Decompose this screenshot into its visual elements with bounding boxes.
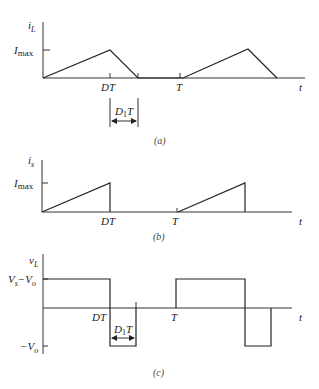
t-label: T xyxy=(172,215,179,227)
waveform-diagram: iL Imax DT T t D1T (a) is Imax DT T t (b… xyxy=(0,0,319,389)
y-axis-label: vL xyxy=(29,254,39,269)
d1t-label: D1T xyxy=(113,323,133,337)
dt-label: DT xyxy=(100,215,116,227)
dt-label: DT xyxy=(100,81,116,93)
y-axis-label: is xyxy=(28,154,34,169)
y-axis-label: iL xyxy=(28,19,36,34)
panel-b-source-current: is Imax DT T t (b) xyxy=(13,154,303,243)
is-waveform-2 xyxy=(178,183,245,212)
caption-a: (a) xyxy=(154,135,166,147)
vl-waveform-2 xyxy=(176,279,271,346)
low-level-label: −Vo xyxy=(20,340,38,355)
panel-a-inductor-current: iL Imax DT T t D1T (a) xyxy=(13,19,305,147)
dt-label: DT xyxy=(91,311,107,323)
x-axis-label: t xyxy=(299,81,303,93)
is-waveform-1 xyxy=(42,183,110,212)
imax-label: Imax xyxy=(13,177,34,191)
d1t-label: D1T xyxy=(114,105,134,119)
imax-label: Imax xyxy=(13,44,34,58)
caption-c: (c) xyxy=(153,367,165,379)
t-label: T xyxy=(171,311,178,323)
panel-c-inductor-voltage: vL Vs−Vo −Vo DT T t D1T (c) xyxy=(8,254,303,379)
il-waveform xyxy=(43,49,277,78)
x-axis-label: t xyxy=(299,215,303,227)
caption-b: (b) xyxy=(153,231,165,243)
high-level-label: Vs−Vo xyxy=(8,273,36,288)
t-label: T xyxy=(176,81,183,93)
x-axis-label: t xyxy=(299,311,303,323)
